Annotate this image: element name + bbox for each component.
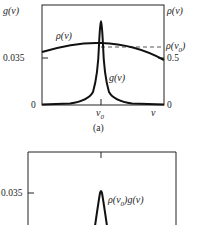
panel-a: g(ν) ρ(ν) ρ(ν) g(ν) ρ(ν0) 0.035 0 0.5 0 … (3, 5, 186, 134)
nu0-tick-label: ν0 (96, 107, 104, 121)
product-curve-label: ρ(ν0)g(ν) (107, 194, 144, 208)
tick-label-0-right: 0 (167, 100, 172, 110)
g-curve-label: g(ν) (109, 72, 126, 84)
rho-nu0-label: ρ(ν0) (165, 40, 186, 54)
tick-label-05: 0.5 (167, 53, 179, 63)
plot-frame-b (28, 152, 176, 225)
nu-axis-label: ν (151, 107, 156, 118)
tick-label-0035-b: 0.035 (1, 188, 23, 198)
figure: g(ν) ρ(ν) ρ(ν) g(ν) ρ(ν0) 0.035 0 0.5 0 … (0, 0, 201, 225)
caption-a: (a) (93, 123, 104, 134)
tick-label-0-left: 0 (31, 100, 36, 110)
product-curve (95, 191, 107, 225)
rho-axis-label: ρ(ν) (166, 5, 184, 17)
panel-b: 0.035 ρ(ν0)g(ν) (1, 152, 176, 225)
tick-label-0035: 0.035 (3, 53, 25, 63)
g-axis-label: g(ν) (3, 5, 20, 17)
rho-curve-label: ρ(ν) (55, 30, 73, 42)
